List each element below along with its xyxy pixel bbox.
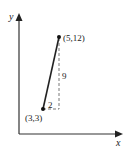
y-axis-label: y: [8, 11, 14, 22]
point-label-3-3: (3,3): [25, 113, 42, 123]
slope-diagram: y x (5,12) (3,3) 9 2: [0, 0, 130, 161]
y-axis-arrow-icon: [16, 13, 23, 21]
line-segment: [43, 37, 59, 109]
rise-label: 9: [62, 71, 67, 81]
point-5-12: [57, 35, 61, 39]
run-label: 2: [48, 100, 53, 110]
point-label-5-12: (5,12): [63, 33, 85, 43]
point-3-3: [41, 107, 45, 111]
x-axis-label: x: [115, 137, 121, 148]
